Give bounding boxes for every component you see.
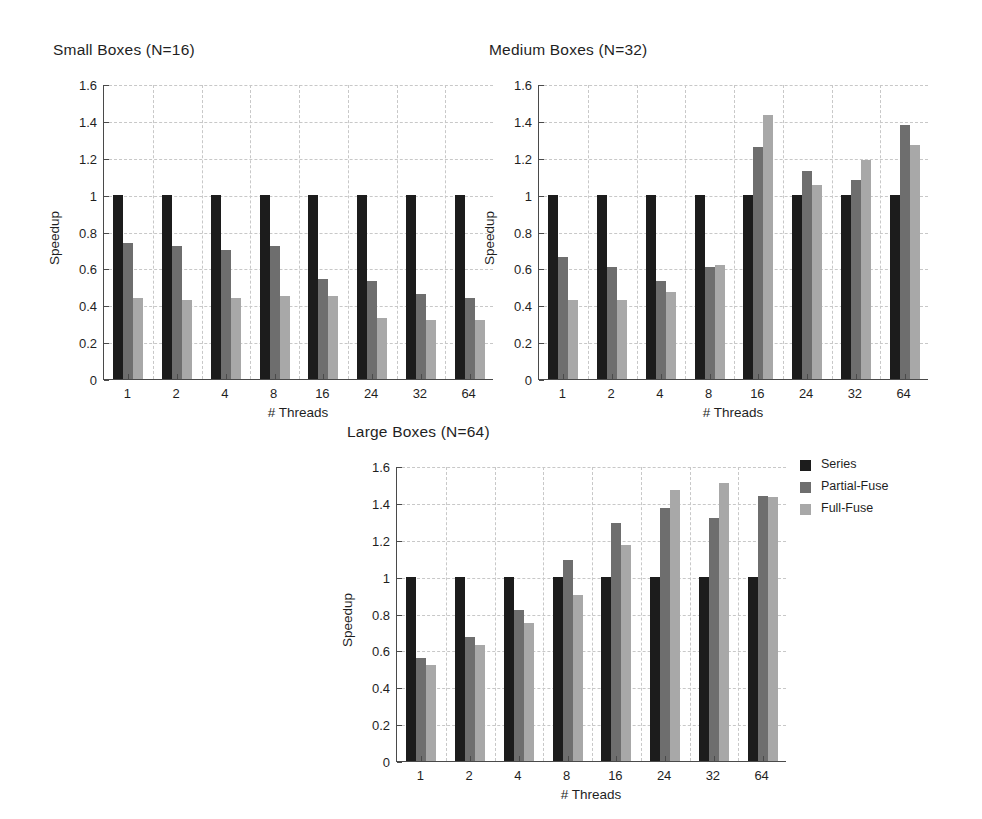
xtick-label: 4 bbox=[498, 768, 538, 783]
subplot-title-3: Large Boxes (N=64) bbox=[347, 423, 490, 441]
bar-partial-fuse bbox=[563, 560, 573, 761]
bar-full-fuse bbox=[573, 595, 583, 761]
xtick-label: 24 bbox=[644, 768, 684, 783]
plot-area-3 bbox=[396, 467, 786, 762]
xtick-mark bbox=[665, 756, 666, 761]
legend-swatch-series bbox=[800, 460, 811, 471]
bar-partial-fuse bbox=[709, 518, 719, 761]
ytick-label: 0.4 bbox=[356, 681, 390, 696]
xtick-label: 2 bbox=[449, 768, 489, 783]
ytick-mark bbox=[397, 762, 402, 763]
bar-partial-fuse bbox=[660, 508, 670, 761]
xaxis-title-3: # Threads bbox=[511, 787, 671, 802]
ytick-label: 1 bbox=[356, 570, 390, 585]
ytick-label: 1.4 bbox=[356, 496, 390, 511]
bar-full-fuse bbox=[621, 545, 631, 761]
legend-label: Partial-Fuse bbox=[821, 479, 888, 493]
bar-series bbox=[748, 577, 758, 761]
xtick-label: 64 bbox=[742, 768, 782, 783]
legend-swatch-full-fuse bbox=[800, 504, 811, 515]
bar-partial-fuse bbox=[611, 523, 621, 761]
bar-full-fuse bbox=[719, 483, 729, 761]
bar-series bbox=[650, 577, 660, 761]
yaxis-title-3: Speedup bbox=[340, 592, 355, 646]
ytick-label: 0.6 bbox=[356, 644, 390, 659]
legend-label: Full-Fuse bbox=[821, 501, 873, 515]
bar-partial-fuse bbox=[416, 658, 426, 761]
xtick-mark bbox=[519, 756, 520, 761]
bar-partial-fuse bbox=[514, 610, 524, 761]
xtick-mark bbox=[470, 756, 471, 761]
ytick-label: 0.8 bbox=[356, 607, 390, 622]
bar-partial-fuse bbox=[758, 496, 768, 762]
bar-series bbox=[601, 577, 611, 761]
xtick-label: 8 bbox=[547, 768, 587, 783]
bars-layer-3 bbox=[397, 467, 786, 761]
legend-swatch-partial-fuse bbox=[800, 482, 811, 493]
legend-label: Series bbox=[821, 457, 856, 471]
xtick-mark bbox=[616, 756, 617, 761]
bar-series bbox=[455, 577, 465, 761]
xtick-mark bbox=[714, 756, 715, 761]
subplot-3: Large Boxes (N=64)00.20.40.60.811.21.41.… bbox=[0, 0, 982, 819]
bar-full-fuse bbox=[670, 490, 680, 761]
xtick-label: 32 bbox=[693, 768, 733, 783]
ytick-label: 0 bbox=[356, 755, 390, 770]
ytick-label: 0.2 bbox=[356, 718, 390, 733]
xtick-label: 1 bbox=[400, 768, 440, 783]
ytick-label: 1.2 bbox=[356, 533, 390, 548]
bar-full-fuse bbox=[524, 623, 534, 761]
bar-series bbox=[699, 577, 709, 761]
bar-series bbox=[504, 577, 514, 761]
xtick-mark bbox=[421, 756, 422, 761]
xtick-mark bbox=[568, 756, 569, 761]
bar-series bbox=[553, 577, 563, 761]
bar-full-fuse bbox=[475, 645, 485, 761]
xtick-mark bbox=[763, 756, 764, 761]
ytick-label: 1.6 bbox=[356, 460, 390, 475]
bar-partial-fuse bbox=[465, 637, 475, 761]
bar-full-fuse bbox=[768, 497, 778, 761]
bar-full-fuse bbox=[426, 665, 436, 761]
xtick-label: 16 bbox=[595, 768, 635, 783]
bar-series bbox=[406, 577, 416, 761]
